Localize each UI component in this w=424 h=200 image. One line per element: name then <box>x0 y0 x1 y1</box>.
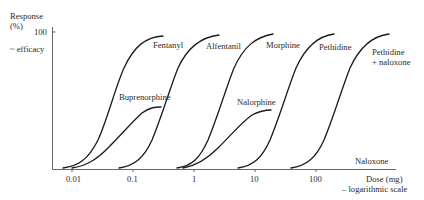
x-axis-subtitle: – logarithmic scale <box>341 184 408 194</box>
x-tick-label-10: 10 <box>250 174 259 184</box>
dose-response-chart: Response (%) 100 ~ efficacy 0.01 0.1 1 1… <box>0 0 424 200</box>
y-efficacy-label: ~ efficacy <box>10 44 45 54</box>
x-tick-label-1: 1 <box>192 174 196 184</box>
y-axis-unit: (%) <box>10 21 23 31</box>
label-pethidine-naloxone-line2: + naloxone <box>372 57 411 67</box>
label-fentanyl: Fentanyl <box>153 40 184 50</box>
x-axis-title: Dose (mg) <box>366 174 403 184</box>
label-buprenorphine: Buprenorphine <box>119 92 171 102</box>
label-pethidine: Pethidine <box>319 42 352 52</box>
label-nalorphine: Nalorphine <box>237 97 276 107</box>
x-tick-label-0.01: 0.01 <box>66 174 81 184</box>
x-tick-label-0.1: 0.1 <box>127 174 138 184</box>
label-alfentanil: Alfentanil <box>206 41 241 51</box>
label-pethidine-naloxone-line1: Pethidine <box>372 47 405 57</box>
y-axis-title: Response <box>10 11 43 21</box>
label-naloxone: Naloxone <box>355 156 389 166</box>
y-tick-label-100: 100 <box>34 27 47 37</box>
x-tick-label-100: 100 <box>309 174 322 184</box>
label-morphine: Morphine <box>266 40 300 50</box>
